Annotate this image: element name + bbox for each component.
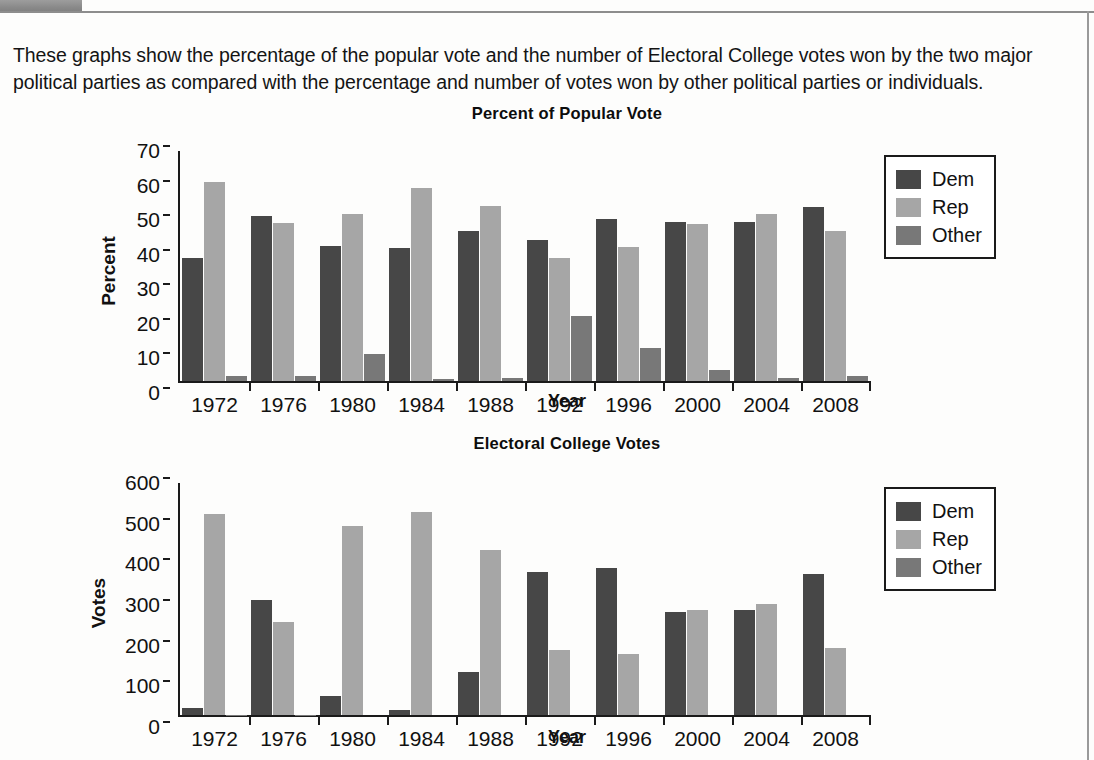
bar-other [709, 370, 730, 381]
legend-label: Other [932, 224, 982, 247]
bar-group [180, 151, 249, 381]
bar-rep [549, 258, 570, 381]
bar-rep [411, 512, 432, 715]
bar-dem [803, 207, 824, 381]
chart-legend: DemRepOther [884, 487, 996, 591]
bar-rep [273, 223, 294, 381]
chart-electoral-college-votes: Electoral College Votes Votes 6005004003… [0, 434, 1094, 760]
bar-rep [687, 224, 708, 381]
legend-item: Other [896, 553, 982, 581]
legend-item: Dem [896, 497, 982, 525]
chart-legend: DemRepOther [884, 155, 996, 259]
bar-rep [342, 214, 363, 381]
bar-dem [251, 216, 272, 381]
bar-dem [389, 248, 410, 381]
bar-rep [411, 188, 432, 381]
legend-swatch-dem [896, 502, 921, 521]
bar-rep [825, 648, 846, 715]
bar-other [364, 354, 385, 381]
bar-rep [618, 247, 639, 381]
bar-dem [320, 246, 341, 381]
legend-item: Rep [896, 525, 982, 553]
chart-title: Percent of Popular Vote [0, 104, 1094, 123]
bar-rep [825, 231, 846, 381]
plot-area: 1972197619801984198819921996200020042008 [178, 483, 870, 717]
bar-group [663, 483, 732, 715]
bar-dem [458, 231, 479, 381]
bar-rep [342, 526, 363, 715]
legend-label: Other [932, 556, 982, 579]
bar-rep [480, 206, 501, 381]
bar-rep [273, 622, 294, 715]
y-axis-tick-labels: 6005004003002001000 [96, 477, 170, 721]
legend-item: Dem [896, 165, 982, 193]
legend-swatch-other [896, 226, 921, 245]
bar-other [571, 316, 592, 381]
y-axis-tick-labels: 706050403020100 [96, 145, 170, 387]
legend-label: Rep [932, 528, 969, 551]
legend-item: Other [896, 221, 982, 249]
x-axis-title: Year [0, 727, 1094, 748]
bar-group [318, 151, 387, 381]
bar-group [732, 151, 801, 381]
legend-label: Rep [932, 196, 969, 219]
bar-rep [549, 650, 570, 715]
bar-dem [596, 219, 617, 381]
bar-group [594, 483, 663, 715]
bar-group [249, 483, 318, 715]
bar-group [525, 151, 594, 381]
bar-dem [665, 222, 686, 381]
bar-group [249, 151, 318, 381]
bar-dem [458, 672, 479, 715]
bar-rep [618, 654, 639, 715]
chart-plot-region: Votes 6005004003002001000 19721976198019… [0, 453, 1094, 753]
bar-dem [803, 574, 824, 715]
page-container: These graphs show the percentage of the … [0, 0, 1094, 760]
x-axis-title: Year [0, 391, 1094, 412]
bar-group [801, 151, 870, 381]
legend-label: Dem [932, 168, 974, 191]
bar-rep [480, 550, 501, 715]
intro-paragraph: These graphs show the percentage of the … [13, 42, 1068, 96]
bar-group [387, 151, 456, 381]
bar-dem [596, 568, 617, 715]
legend-swatch-dem [896, 170, 921, 189]
bar-dem [665, 612, 686, 715]
bar-rep [756, 604, 777, 715]
bar-dem [182, 258, 203, 381]
page-frame-top-rule [0, 11, 1094, 13]
bar-rep [204, 514, 225, 715]
legend-label: Dem [932, 500, 974, 523]
bar-group [801, 483, 870, 715]
bar-group [594, 151, 663, 381]
bar-dem [734, 222, 755, 381]
bar-groups [180, 151, 870, 381]
bar-group [456, 151, 525, 381]
bar-group [525, 483, 594, 715]
chart-plot-region: Percent 706050403020100 1972197619801984… [0, 123, 1094, 418]
bar-rep [687, 610, 708, 715]
chart-title: Electoral College Votes [0, 434, 1094, 453]
bar-dem [251, 600, 272, 715]
bar-dem [527, 572, 548, 715]
legend-item: Rep [896, 193, 982, 221]
legend-swatch-rep [896, 530, 921, 549]
legend-swatch-other [896, 558, 921, 577]
bar-rep [756, 214, 777, 381]
bar-dem [734, 610, 755, 715]
bar-other [640, 348, 661, 381]
bar-group [663, 151, 732, 381]
bar-dem [320, 696, 341, 715]
bar-group [318, 483, 387, 715]
bar-group [180, 483, 249, 715]
bar-rep [204, 182, 225, 381]
plot-area: 1972197619801984198819921996200020042008 [178, 151, 870, 383]
chart-percent-of-popular-vote: Percent of Popular Vote Percent 70605040… [0, 104, 1094, 426]
bar-group [387, 483, 456, 715]
bar-dem [527, 240, 548, 381]
bar-group [732, 483, 801, 715]
legend-swatch-rep [896, 198, 921, 217]
bar-groups [180, 483, 870, 715]
bar-group [456, 483, 525, 715]
